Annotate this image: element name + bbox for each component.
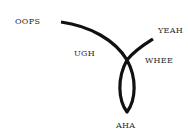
label-aha: AHA [116, 122, 135, 130]
label-whee: WHEE [145, 57, 173, 65]
label-oops: OOPS [15, 18, 40, 26]
diagram-canvas: OOPS UGH YEAH WHEE AHA [0, 0, 188, 133]
curve-stroke [61, 22, 153, 112]
label-yeah: YEAH [158, 27, 183, 35]
label-ugh: UGH [74, 50, 95, 58]
